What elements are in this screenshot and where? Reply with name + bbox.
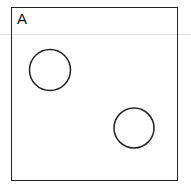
circle-2 bbox=[114, 108, 154, 148]
circles-layer bbox=[0, 0, 191, 189]
circle-1 bbox=[30, 50, 71, 91]
